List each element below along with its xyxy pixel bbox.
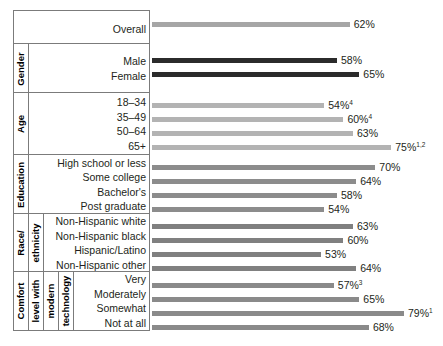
bar-value-label: 68% — [373, 322, 394, 333]
bar-row: 75%1,2 — [152, 140, 425, 155]
group-title-label: Gender — [16, 52, 26, 85]
chart-group-comfort-level-with-modern-technology: Comfortlevel withmoderntechnologyVeryMod… — [13, 271, 150, 331]
bar-value-label: 54%4 — [328, 100, 353, 111]
category-label: Not at all — [74, 316, 146, 331]
category-label: 35–49 — [29, 110, 146, 125]
chart-group-education: EducationHigh school or lessSome college… — [13, 154, 150, 214]
bar — [152, 224, 353, 229]
bar-value-label: 60% — [347, 235, 368, 246]
group-title-cell: level with — [29, 272, 44, 330]
group-title-cell: Age — [14, 93, 29, 155]
bar-row: 68% — [152, 320, 394, 335]
bar — [152, 145, 391, 150]
category-label: Non-Hispanic white — [44, 214, 146, 229]
category-label: Female — [29, 69, 146, 84]
bar-value-label: 53% — [325, 249, 346, 260]
category-label: Moderately — [74, 287, 146, 302]
category-label: Male — [29, 54, 146, 69]
chart-group-race-ethnicity: Race/ethnicityNon-Hispanic whiteNon-Hisp… — [13, 213, 150, 272]
bar-value-footnote: 3 — [359, 278, 363, 285]
category-label: Overall — [14, 22, 146, 37]
bar — [152, 252, 321, 257]
bar-value-label: 65% — [363, 294, 384, 305]
bar-chart: OverallGenderMaleFemaleAge18–3435–4950–6… — [0, 0, 443, 346]
group-title-label: Comfort — [16, 283, 26, 320]
bar — [152, 131, 353, 136]
category-label: Post graduate — [29, 199, 146, 214]
bar-row: 62% — [152, 17, 375, 32]
bar — [152, 179, 356, 184]
bar-row: 70% — [152, 160, 400, 175]
group-title-cell: Race/ — [14, 214, 29, 272]
group-title-label: Race/ — [16, 230, 26, 255]
bar-row: 54% — [152, 202, 349, 217]
bar — [152, 117, 343, 122]
category-label: 18–34 — [29, 95, 146, 110]
category-label: High school or less — [29, 156, 146, 171]
bar-row: 63% — [152, 126, 378, 141]
bar-row: 64% — [152, 174, 381, 189]
bar-row: 79%1 — [152, 306, 433, 321]
category-label-list: VeryModeratelySomewhatNot at all — [74, 272, 149, 330]
category-label: Hispanic/Latino — [44, 243, 146, 258]
bar-row: 65% — [152, 67, 384, 82]
group-title-cell: technology — [59, 272, 74, 330]
bar-value-label: 54% — [328, 204, 349, 215]
group-title-label: technology — [61, 276, 71, 327]
bar — [152, 103, 324, 108]
bar — [152, 238, 343, 243]
chart-group-gender: GenderMaleFemale — [13, 43, 150, 93]
bar-row: 53% — [152, 247, 346, 262]
bar-row: 57%3 — [152, 278, 362, 293]
bar-value-label: 65% — [363, 69, 384, 80]
bar-row: 65% — [152, 292, 384, 307]
bar-row: 60%4 — [152, 112, 372, 127]
group-title-label: modern — [46, 284, 56, 319]
bar-value-label: 70% — [379, 162, 400, 173]
bar-row: 64% — [152, 261, 381, 276]
bar-value-label: 62% — [354, 19, 375, 30]
category-label-list: 18–3435–4950–6465+ — [29, 93, 149, 155]
bar-value-label: 64% — [360, 263, 381, 274]
bar-row: 60% — [152, 233, 368, 248]
bar — [152, 325, 369, 330]
category-label: Bachelor's — [29, 185, 146, 200]
category-label: 50–64 — [29, 124, 146, 139]
bar-row: 58% — [152, 188, 362, 203]
bar — [152, 72, 359, 77]
group-title-label: Education — [16, 162, 26, 208]
group-title-cell: Gender — [14, 44, 29, 93]
bar-value-label: 63% — [357, 221, 378, 232]
category-label-list: MaleFemale — [29, 44, 149, 93]
group-title-label: Age — [16, 115, 26, 133]
bar-value-footnote: 1 — [429, 306, 433, 313]
chart-group-age: Age18–3435–4950–6465+ — [13, 92, 150, 155]
bar — [152, 193, 337, 198]
category-label: Some college — [29, 170, 146, 185]
group-title-cell: ethnicity — [29, 214, 44, 272]
bar — [152, 283, 334, 288]
bar-row: 63% — [152, 219, 378, 234]
category-label: 65+ — [29, 139, 146, 154]
bar-value-label: 75%1,2 — [395, 142, 425, 153]
bar-value-footnote: 1,2 — [416, 140, 425, 147]
bar — [152, 207, 324, 212]
bar — [152, 311, 404, 316]
bar-value-label: 64% — [360, 176, 381, 187]
bar-value-label: 63% — [357, 128, 378, 139]
bar-value-label: 60%4 — [347, 114, 372, 125]
group-title-cell: Comfort — [14, 272, 29, 330]
category-label: Non-Hispanic black — [44, 229, 146, 244]
bar-value-footnote: 4 — [368, 112, 372, 119]
bar-value-footnote: 4 — [349, 98, 353, 105]
category-label-list: High school or lessSome collegeBachelor'… — [29, 155, 149, 214]
category-label: Very — [74, 272, 146, 287]
group-title-label: level with — [31, 280, 41, 323]
bar — [152, 22, 350, 27]
bar — [152, 165, 375, 170]
group-title-cell: modern — [44, 272, 59, 330]
bar-value-label: 79%1 — [408, 308, 433, 319]
bar-value-label: 57%3 — [338, 280, 363, 291]
bar — [152, 297, 359, 302]
bar-row: 54%4 — [152, 98, 353, 113]
